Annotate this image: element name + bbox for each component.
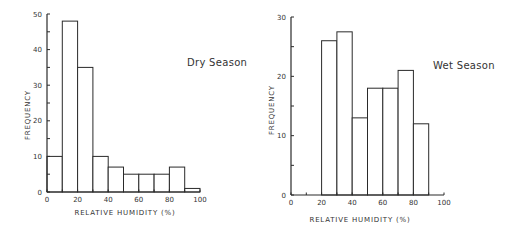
wet-season-bar-50-60 xyxy=(368,88,383,195)
dry-season-bar-20-30 xyxy=(78,67,93,192)
wet-season-annotation: Wet Season xyxy=(433,60,495,71)
wet-season-y-tick-label: 30 xyxy=(277,14,286,22)
wet-season-x-tick-label: 80 xyxy=(409,199,418,207)
wet-season-bars xyxy=(322,32,429,195)
dry-season-y-tick-label: 50 xyxy=(33,11,42,19)
wet-season-x-tick-label: 0 xyxy=(289,199,293,207)
wet-season-x-tick-label: 20 xyxy=(317,199,326,207)
dry-season-y-tick-label: 40 xyxy=(33,46,42,54)
dry-season-y-tick-label: 10 xyxy=(33,153,42,161)
dry-season-bar-50-60 xyxy=(124,174,139,192)
dry-season-histogram: 01020304050020406080100 FREQUENCY RELATI… xyxy=(24,11,247,218)
wet-season-x-tick-label: 100 xyxy=(437,199,450,207)
wet-season-y-tick-label: 10 xyxy=(277,132,286,140)
wet-season-bar-20-30 xyxy=(322,41,337,195)
dry-season-y-tick-label: 20 xyxy=(33,117,42,125)
wet-season-y-axis-label: FREQUENCY xyxy=(268,85,276,135)
wet-season-histogram: 0102030020406080100 FREQUENCY RELATIVE H… xyxy=(268,14,495,225)
wet-season-x-axis-label: RELATIVE HUMIDITY (%) xyxy=(309,216,410,224)
wet-season-bar-40-50 xyxy=(352,118,367,195)
dry-season-x-tick-label: 100 xyxy=(193,196,206,204)
wet-season-x-tick-label: 40 xyxy=(348,199,357,207)
dry-season-y-tick-label: 30 xyxy=(33,82,42,90)
dry-season-bar-70-80 xyxy=(154,174,169,192)
dry-season-x-tick-label: 80 xyxy=(165,196,174,204)
wet-season-bar-70-80 xyxy=(398,70,413,195)
dry-season-x-tick-label: 40 xyxy=(104,196,113,204)
wet-season-bar-60-70 xyxy=(383,88,398,195)
wet-season-bar-80-90 xyxy=(413,124,428,195)
dry-season-annotation: Dry Season xyxy=(187,57,247,68)
dry-season-x-axis-label: RELATIVE HUMIDITY (%) xyxy=(74,209,175,217)
dry-season-y-axis-label: FREQUENCY xyxy=(24,90,32,140)
dry-season-x-tick-label: 0 xyxy=(45,196,49,204)
dry-season-bar-80-90 xyxy=(169,167,184,192)
dry-season-bar-40-50 xyxy=(108,167,123,192)
dry-season-bars xyxy=(47,21,200,192)
wet-season-x-tick-label: 60 xyxy=(378,199,387,207)
dry-season-y-tick-label: 0 xyxy=(38,189,42,197)
dry-season-x-tick-label: 60 xyxy=(134,196,143,204)
wet-season-bar-30-40 xyxy=(337,32,352,195)
dry-season-bar-60-70 xyxy=(139,174,154,192)
dry-season-x-tick-label: 20 xyxy=(73,196,82,204)
dry-season-bar-10-20 xyxy=(62,21,77,192)
chart-canvas: 01020304050020406080100 FREQUENCY RELATI… xyxy=(0,0,516,235)
wet-season-y-tick-label: 0 xyxy=(282,192,286,200)
dry-season-bar-30-40 xyxy=(93,156,108,192)
wet-season-y-tick-label: 20 xyxy=(277,73,286,81)
